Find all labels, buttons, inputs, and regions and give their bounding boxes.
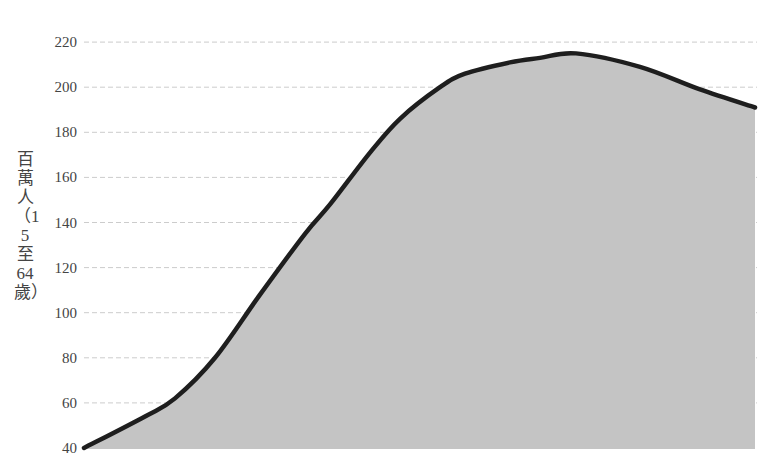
y-tick-label: 100 <box>55 305 78 321</box>
y-tick-label: 180 <box>55 124 78 140</box>
y-tick-label: 120 <box>55 260 78 276</box>
y-tick-label: 80 <box>62 350 77 366</box>
y-tick-label: 40 <box>62 440 77 456</box>
y-tick-label: 160 <box>55 169 78 185</box>
y-axis-label: 百萬人（15至64歲） <box>14 150 36 302</box>
area-chart: 406080100120140160180200220 <box>0 0 775 460</box>
y-tick-label: 140 <box>55 215 78 231</box>
y-tick-label: 200 <box>55 79 78 95</box>
y-axis-ticks: 406080100120140160180200220 <box>55 34 78 456</box>
y-tick-label: 220 <box>55 34 78 50</box>
y-tick-label: 60 <box>62 395 77 411</box>
